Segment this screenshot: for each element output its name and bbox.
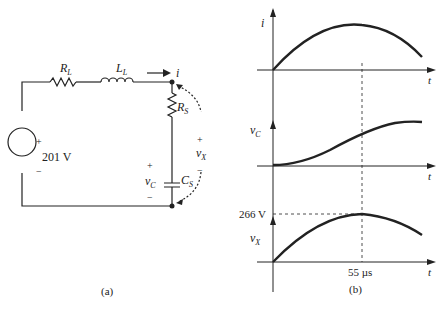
axis-label-vc: vC xyxy=(250,123,261,139)
source-minus: − xyxy=(36,166,42,177)
arrow-up-icon xyxy=(270,8,276,17)
node-dot xyxy=(170,204,175,209)
arrow-right-icon xyxy=(427,163,436,169)
arrow-right-icon xyxy=(427,259,436,265)
arrow-right-icon xyxy=(427,67,436,73)
capacitor-CS xyxy=(164,183,180,187)
waveform-graphs xyxy=(257,10,432,292)
vx-curve xyxy=(273,214,422,262)
node-dot xyxy=(170,80,175,85)
axis-label-vx: vX xyxy=(250,231,261,247)
label-CS: CS xyxy=(181,173,193,189)
label-vc: vC xyxy=(145,174,156,190)
peak-time-label: 55 µs xyxy=(348,266,372,278)
arrow-up-icon xyxy=(270,216,276,225)
vc-plus: + xyxy=(147,160,153,171)
vc-minus: − xyxy=(147,192,153,203)
label-vx: vX xyxy=(196,146,207,162)
label-RL: RL xyxy=(59,61,72,77)
wire-top-left xyxy=(22,82,50,111)
figure: RL LL i RS CS 201 V + − + vC − + vX − (a… xyxy=(0,0,443,309)
axis-label-t: t xyxy=(428,74,432,86)
vc-curve xyxy=(273,122,422,165)
inductor-LL xyxy=(101,78,133,82)
peak-voltage-label: 266 V xyxy=(239,208,266,220)
i-curve xyxy=(273,25,422,70)
arrowhead-icon xyxy=(176,84,183,90)
resistor-RL xyxy=(50,78,76,86)
label-LL: LL xyxy=(115,61,128,77)
arrow-up-icon xyxy=(270,120,276,129)
vx-plus: + xyxy=(197,134,203,145)
axis-label-t: t xyxy=(428,266,432,278)
source-voltage: 201 V xyxy=(42,150,72,164)
axis-label-i: i xyxy=(261,16,264,30)
caption-b: (b) xyxy=(349,283,362,296)
arrowhead-icon xyxy=(176,199,183,205)
voltage-source-icon xyxy=(8,128,36,156)
label-i: i xyxy=(176,66,179,80)
label-RS: RS xyxy=(176,100,188,116)
current-arrowhead-icon xyxy=(163,69,171,77)
vx-minus: − xyxy=(197,165,203,176)
source-plus: + xyxy=(36,136,42,147)
resistor-RS xyxy=(168,93,176,117)
caption-a: (a) xyxy=(101,285,114,298)
axis-label-t: t xyxy=(428,170,432,182)
